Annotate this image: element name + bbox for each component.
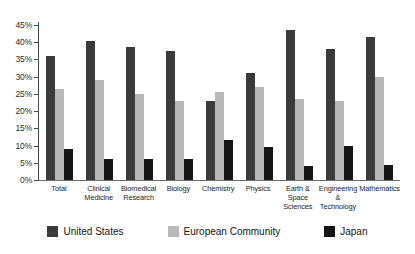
category-label-line: Chemistry: [199, 184, 237, 193]
category-label-line: Research: [120, 193, 158, 202]
legend-swatch-icon: [324, 226, 335, 237]
category-label-line: & Technology: [319, 193, 357, 211]
x-axis-category-label: Engineering& Technology: [318, 184, 358, 220]
bar: [326, 49, 335, 180]
bar-group: [320, 25, 360, 180]
category-label-line: Earth &: [279, 184, 317, 193]
category-label-line: Physics: [239, 184, 277, 193]
y-axis-tick-label: 10%: [16, 141, 32, 150]
category-label-line: Clinical: [80, 184, 118, 193]
bar: [255, 87, 264, 180]
bar: [126, 47, 135, 180]
legend-swatch-icon: [47, 226, 58, 237]
category-label-line: Biomedical: [120, 184, 158, 193]
bar: [375, 77, 384, 180]
bar: [384, 165, 393, 181]
bar: [86, 41, 95, 181]
chart-legend: United StatesEuropean CommunityJapan: [0, 226, 415, 237]
x-axis-category-label: BiomedicalResearch: [119, 184, 159, 220]
bar: [246, 73, 255, 180]
bar: [95, 80, 104, 180]
x-axis-category-labels: TotalClinicalMedicineBiomedicalResearchB…: [39, 184, 401, 220]
y-axis-tick-label: 5%: [20, 159, 32, 168]
bar: [304, 166, 313, 180]
bar-group: [119, 25, 159, 180]
x-axis-category-label: Biology: [158, 184, 198, 220]
bar: [144, 159, 153, 180]
bar: [135, 94, 144, 180]
category-label-line: Total: [40, 184, 78, 193]
bar: [224, 140, 233, 180]
bar: [166, 51, 175, 180]
category-label-line: Biology: [159, 184, 197, 193]
category-label-line: Mathematics: [359, 184, 400, 193]
legend-label: Japan: [340, 227, 367, 237]
legend-swatch-icon: [168, 226, 179, 237]
bar: [64, 149, 73, 180]
bar-group: [240, 25, 280, 180]
bar-group: [280, 25, 320, 180]
x-axis-category-label: Earth &SpaceSciences: [278, 184, 318, 220]
y-axis-tick-mark: [34, 180, 39, 181]
x-axis-line: [38, 180, 400, 181]
legend-label: United States: [63, 227, 123, 237]
bar: [264, 147, 273, 180]
plot-area: 45%40%35%30%25%20%15%10%5%0%: [38, 25, 400, 180]
category-label-line: Medicine: [80, 193, 118, 202]
bar: [175, 101, 184, 180]
y-axis-tick-label: 25%: [16, 90, 32, 99]
legend-item[interactable]: European Community: [168, 226, 281, 237]
bar: [104, 159, 113, 180]
y-axis-tick-label: 40%: [16, 38, 32, 47]
legend-item[interactable]: Japan: [324, 226, 367, 237]
legend-label: European Community: [184, 227, 281, 237]
x-axis-category-label: Mathematics: [358, 184, 401, 220]
bar-groups: [39, 25, 400, 180]
bar: [366, 37, 375, 180]
bar: [286, 30, 295, 180]
x-axis-category-label: Total: [39, 184, 79, 220]
bar-group: [199, 25, 239, 180]
bar: [335, 101, 344, 180]
bar-group: [39, 25, 79, 180]
y-axis-tick-label: 35%: [16, 55, 32, 64]
bar-group: [159, 25, 199, 180]
bar-group: [79, 25, 119, 180]
bar: [206, 101, 215, 180]
category-label-line: Engineering: [319, 184, 357, 193]
x-axis-category-label: Physics: [238, 184, 278, 220]
category-label-line: Sciences: [279, 202, 317, 211]
bar: [215, 92, 224, 180]
y-axis-tick-label: 15%: [16, 124, 32, 133]
bar-chart-figure: 45%40%35%30%25%20%15%10%5%0% TotalClinic…: [0, 0, 415, 254]
x-axis-category-label: ClinicalMedicine: [79, 184, 119, 220]
y-axis-tick-label: 20%: [16, 107, 32, 116]
bar: [295, 99, 304, 180]
bar: [46, 56, 55, 180]
bar: [184, 159, 193, 180]
bar-group: [360, 25, 400, 180]
category-label-line: Space: [279, 193, 317, 202]
x-axis-category-label: Chemistry: [198, 184, 238, 220]
bar: [344, 146, 353, 180]
y-axis-tick-label: 30%: [16, 72, 32, 81]
y-axis-tick-label: 45%: [16, 21, 32, 30]
legend-item[interactable]: United States: [47, 226, 123, 237]
bar: [55, 89, 64, 180]
y-axis-tick-label: 0%: [20, 176, 32, 185]
